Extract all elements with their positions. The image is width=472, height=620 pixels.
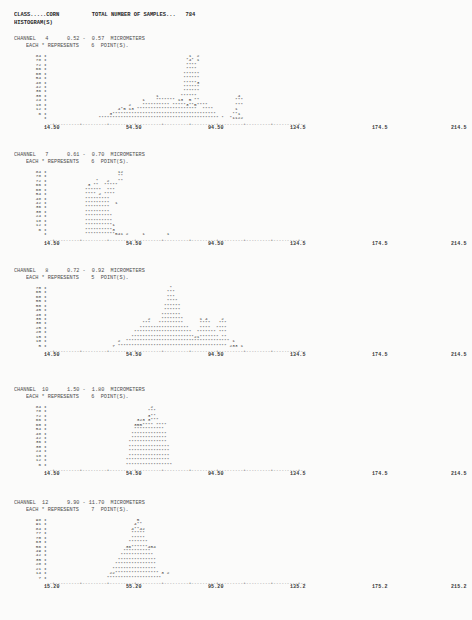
x-tick-label: 15.20 <box>44 584 60 591</box>
histogram-block-2: CHANNEL 8 0.72 - 0.92 MICROMETERSEACH * … <box>14 268 464 354</box>
x-tick-label: 54.50 <box>126 125 142 132</box>
scale-legend: EACH * REPRESENTS 5 POINT(S). <box>14 275 464 282</box>
x-tick-label: 14.50 <box>44 352 60 359</box>
channel-heading: CHANNEL 4 0.52 - 0.57 MICROMETERS <box>14 36 464 43</box>
plot-area: 84 I 2 78 I *** 72 I 3** 66 I 323 3 <box>14 403 464 473</box>
channel-range-label: 0.72 - 0.92 MICROMETERS <box>67 268 145 274</box>
x-tick-label: 215.2 <box>451 584 467 591</box>
channel-gap <box>48 500 67 506</box>
histogram-block-3: CHANNEL 10 1.50 - 1.80 MICROMETERSEACH *… <box>14 387 464 473</box>
x-tick-label: 214.5 <box>451 352 467 359</box>
x-tick-label: 54.50 <box>126 352 142 359</box>
x-tick-label: 214.5 <box>451 471 467 478</box>
scale-legend: EACH * REPRESENTS 6 POINT(S). <box>14 159 464 166</box>
x-tick-label: 214.5 <box>451 125 467 132</box>
x-tick-label: 174.5 <box>372 125 388 132</box>
x-tick-label: 135.2 <box>290 584 306 591</box>
total-samples-label: TOTAL NUMBER OF SAMPLES... <box>92 12 176 18</box>
scale-legend: EACH * REPRESENTS 6 POINT(S). <box>14 394 464 401</box>
x-tick-label: 94.50 <box>208 241 224 248</box>
channel-heading: CHANNEL 8 0.72 - 0.92 MICROMETERS <box>14 268 464 275</box>
plot-rows: 98 I 5 91 I 4** 84 I 4**42 77 I ***** 70… <box>14 518 170 580</box>
x-tick-label: 14.50 <box>44 471 60 478</box>
x-tick-label: 94.50 <box>208 471 224 478</box>
plot-rows: 84 I 12 78 I ** 72 I * 2 ** 66 I 3 ** **… <box>14 170 170 237</box>
class-label: CLASS.....CORN <box>14 12 59 18</box>
channel-label: CHANNEL 4 <box>14 36 48 42</box>
x-tick-label: 134.5 <box>290 471 306 478</box>
channel-gap <box>48 387 67 393</box>
channel-label: CHANNEL 8 <box>14 268 48 274</box>
x-tick-label: 14.50 <box>44 125 60 132</box>
channel-range-label: 0.52 - 0.57 MICROMETERS <box>67 36 145 42</box>
scale-legend: EACH * REPRESENTS 7 POINT(S). <box>14 507 464 514</box>
plot-rows: 84 I 2 78 I *** 72 I 3** 66 I 323 3 <box>14 405 172 467</box>
channel-label: CHANNEL 12 <box>14 500 48 506</box>
plot-area: 84 I 12 78 I ** 72 I * 2 ** 66 I 3 ** **… <box>14 168 464 238</box>
channel-label: CHANNEL 10 <box>14 387 48 393</box>
header-class-line: CLASS.....CORN TOTAL NUMBER OF SAMPLES..… <box>14 12 464 20</box>
x-tick-label: 134.5 <box>290 125 306 132</box>
report-page: CLASS.....CORN TOTAL NUMBER OF SAMPLES..… <box>0 0 472 620</box>
channel-range-label: 0.61 - 0.70 MICROMETERS <box>67 152 145 158</box>
channel-heading: CHANNEL 7 0.61 - 0.70 MICROMETERS <box>14 152 464 159</box>
plot-rows: 84 I 1 2 78 I *4* 1 72 I **** <box>14 54 243 121</box>
x-tick-label: 54.50 <box>126 471 142 478</box>
channel-range-label: 9.90 - 11.70 MICROMETERS <box>67 500 145 506</box>
x-tick-label: 95.20 <box>208 584 224 591</box>
total-samples-value: 784 <box>185 12 195 18</box>
x-tick-label: 134.5 <box>290 352 306 359</box>
channel-range-label: 1.50 - 1.80 MICROMETERS <box>67 387 145 393</box>
x-tick-label: 54.50 <box>126 241 142 248</box>
histogram-block-0: CHANNEL 4 0.52 - 0.57 MICROMETERSEACH * … <box>14 36 464 122</box>
x-tick-label: 214.5 <box>451 241 467 248</box>
plot-rows: 70 I * 65 I *** 60 I *** 55 I <box>14 286 243 348</box>
channel-label: CHANNEL 7 <box>14 152 48 158</box>
header-spacer <box>59 12 91 18</box>
channel-heading: CHANNEL 10 1.50 - 1.80 MICROMETERS <box>14 387 464 394</box>
plot-area: 70 I * 65 I *** 60 I *** 55 I <box>14 284 464 354</box>
x-tick-label: 134.5 <box>290 241 306 248</box>
x-tick-label: 174.5 <box>372 241 388 248</box>
channel-gap <box>48 36 67 42</box>
x-tick-label: 174.5 <box>372 352 388 359</box>
channel-heading: CHANNEL 12 9.90 - 11.70 MICROMETERS <box>14 500 464 507</box>
plot-area: 84 I 1 2 78 I *4* 1 72 I **** <box>14 52 464 122</box>
section-title: HISTOGRAM(S) <box>14 20 464 28</box>
channel-gap <box>48 268 67 274</box>
channel-gap <box>48 152 67 158</box>
histogram-block-4: CHANNEL 12 9.90 - 11.70 MICROMETERSEACH … <box>14 500 464 586</box>
histogram-block-1: CHANNEL 7 0.61 - 0.70 MICROMETERSEACH * … <box>14 152 464 238</box>
x-tick-label: 94.50 <box>208 352 224 359</box>
scale-legend: EACH * REPRESENTS 6 POINT(S). <box>14 43 464 50</box>
plot-area: 98 I 5 91 I 4** 84 I 4**42 77 I ***** 70… <box>14 516 464 586</box>
x-tick-label: 14.50 <box>44 241 60 248</box>
x-tick-label: 174.5 <box>372 471 388 478</box>
report-header: CLASS.....CORN TOTAL NUMBER OF SAMPLES..… <box>14 12 464 27</box>
x-tick-label: 175.2 <box>372 584 388 591</box>
x-tick-label: 55.20 <box>126 584 142 591</box>
x-tick-label: 94.50 <box>208 125 224 132</box>
